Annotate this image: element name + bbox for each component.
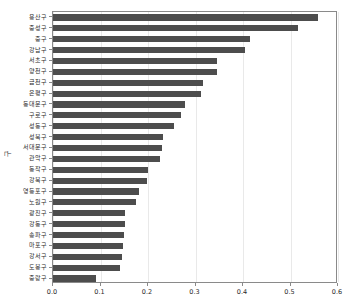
bar-row[interactable] <box>53 175 147 186</box>
bar[interactable] <box>53 145 162 151</box>
y-tick-label: 강동구 <box>29 218 47 229</box>
y-tick-label: 용산구 <box>29 11 47 22</box>
y-tick-label: 마포구 <box>29 239 47 250</box>
y-tick-label: 도봉구 <box>29 261 47 272</box>
y-tick-label: 은평구 <box>29 87 47 98</box>
bar-row[interactable] <box>53 12 318 23</box>
gridline <box>338 12 339 282</box>
bar-row[interactable] <box>53 121 174 132</box>
y-tick-label: 금천구 <box>29 76 47 87</box>
bar-row[interactable] <box>53 186 139 197</box>
bar-row[interactable] <box>53 23 298 34</box>
y-tick-label: 노원구 <box>29 196 47 207</box>
bar-row[interactable] <box>53 99 185 110</box>
bar-row[interactable] <box>53 251 122 262</box>
bar[interactable] <box>53 25 298 31</box>
y-tick-label: 영등포구 <box>23 185 47 196</box>
y-tick-label: 서초구 <box>29 55 47 66</box>
y-tick-label: 양천구 <box>29 65 47 76</box>
bar[interactable] <box>53 254 122 260</box>
bar[interactable] <box>53 167 148 173</box>
x-tick-label: 0.0 <box>47 288 57 296</box>
bar-row[interactable] <box>53 88 201 99</box>
bar[interactable] <box>53 243 123 249</box>
x-tick-mark <box>52 283 53 286</box>
y-tick-label: 중성구 <box>29 22 47 33</box>
x-tick-label: 0.2 <box>142 288 152 296</box>
bar[interactable] <box>53 221 125 227</box>
y-tick-label: 서대문구 <box>23 142 47 153</box>
bar-row[interactable] <box>53 45 245 56</box>
y-tick-label: 성동구 <box>29 120 47 131</box>
x-tick-label: 0.4 <box>237 288 247 296</box>
bar[interactable] <box>53 69 217 75</box>
bar[interactable] <box>53 134 163 140</box>
y-tick-label: 광진구 <box>29 207 47 218</box>
y-tick-label: 강서구 <box>29 250 47 261</box>
x-tick-label: 0.3 <box>189 288 199 296</box>
bar-row[interactable] <box>53 56 217 67</box>
x-tick-mark <box>337 283 338 286</box>
plot-area <box>52 11 337 283</box>
x-tick-mark <box>290 283 291 286</box>
bar[interactable] <box>53 80 203 86</box>
bar[interactable] <box>53 14 318 20</box>
bar[interactable] <box>53 275 96 281</box>
bar[interactable] <box>53 199 136 205</box>
x-tick-mark <box>195 283 196 286</box>
bar[interactable] <box>53 232 124 238</box>
bar[interactable] <box>53 36 250 42</box>
y-tick-label: 중랑구 <box>29 272 47 283</box>
bar[interactable] <box>53 210 125 216</box>
bar-row[interactable] <box>53 143 162 154</box>
bar[interactable] <box>53 123 174 129</box>
bar[interactable] <box>53 91 201 97</box>
bar-row[interactable] <box>53 34 250 45</box>
bar[interactable] <box>53 178 147 184</box>
x-tick-label: 0.6 <box>332 288 342 296</box>
bar-row[interactable] <box>53 197 136 208</box>
bar-row[interactable] <box>53 262 120 273</box>
bar[interactable] <box>53 58 217 64</box>
x-tick-mark <box>242 283 243 286</box>
y-tick-label: 강북구 <box>29 174 47 185</box>
bar[interactable] <box>53 188 139 194</box>
bar-series <box>53 12 336 282</box>
bar-row[interactable] <box>53 219 125 230</box>
bar-row[interactable] <box>53 132 163 143</box>
x-tick-mark <box>100 283 101 286</box>
x-axis-tick-labels: 0.00.10.20.30.40.50.6 <box>52 283 337 303</box>
bar-row[interactable] <box>53 240 123 251</box>
bar[interactable] <box>53 101 185 107</box>
bar[interactable] <box>53 47 245 53</box>
x-tick-label: 0.5 <box>284 288 294 296</box>
x-tick-mark <box>147 283 148 286</box>
bar-row[interactable] <box>53 66 217 77</box>
y-tick-label: 관악구 <box>29 152 47 163</box>
y-tick-label: 동작구 <box>29 163 47 174</box>
bar-row[interactable] <box>53 164 148 175</box>
x-tick-label: 0.1 <box>94 288 104 296</box>
y-tick-label: 강남구 <box>29 44 47 55</box>
y-axis-tick-labels: 용산구중성구중구강남구서초구양천구금천구은평구동대문구구로구성동구성북구서대문구… <box>0 11 52 283</box>
y-tick-label: 구로구 <box>29 109 47 120</box>
bar-row[interactable] <box>53 153 160 164</box>
bar[interactable] <box>53 112 181 118</box>
y-tick-label: 중구 <box>35 33 47 44</box>
bar[interactable] <box>53 156 160 162</box>
bar-row[interactable] <box>53 230 124 241</box>
bar-row[interactable] <box>53 208 125 219</box>
bar-row[interactable] <box>53 77 203 88</box>
y-tick-label: 송파구 <box>29 229 47 240</box>
bar-row[interactable] <box>53 110 181 121</box>
bar[interactable] <box>53 265 120 271</box>
y-tick-label: 성북구 <box>29 131 47 142</box>
y-tick-label: 동대문구 <box>23 98 47 109</box>
bar-chart: 구 용산구중성구중구강남구서초구양천구금천구은평구동대문구구로구성동구성북구서대… <box>0 0 348 307</box>
